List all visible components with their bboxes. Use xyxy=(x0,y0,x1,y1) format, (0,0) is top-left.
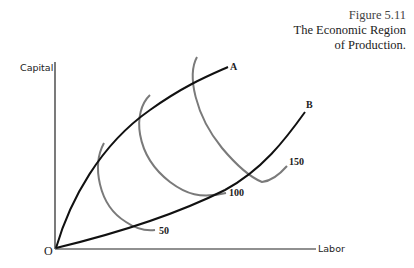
isoquant-100 xyxy=(139,95,226,196)
ridge-line-a xyxy=(56,67,228,248)
economic-region-diagram: Capital Labor O A B 50 100 150 xyxy=(0,0,414,268)
isoquant-100-label: 100 xyxy=(229,187,244,198)
y-axis-label: Capital xyxy=(20,62,53,73)
ridge-b-label: B xyxy=(306,99,313,110)
origin-label: O xyxy=(44,244,53,258)
ridge-a-label: A xyxy=(230,61,238,72)
isoquant-50-label: 50 xyxy=(159,225,169,236)
isoquant-150-label: 150 xyxy=(289,156,304,167)
x-axis-label: Labor xyxy=(318,243,345,254)
